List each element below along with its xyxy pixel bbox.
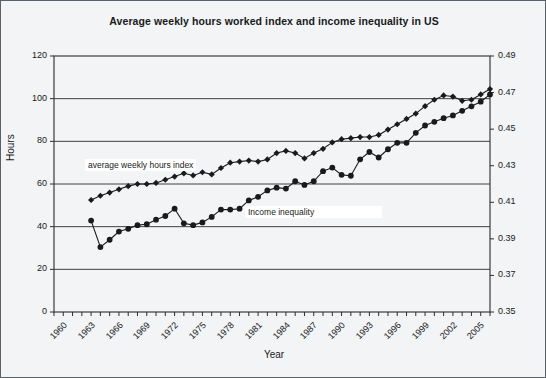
data-point bbox=[116, 229, 122, 235]
data-point bbox=[478, 91, 484, 97]
data-point bbox=[237, 206, 243, 212]
data-point bbox=[394, 140, 400, 146]
data-point bbox=[274, 150, 280, 156]
data-point bbox=[218, 207, 224, 213]
data-point bbox=[116, 186, 122, 192]
data-point bbox=[125, 226, 131, 232]
data-point bbox=[431, 119, 437, 125]
data-point bbox=[255, 194, 261, 200]
chart-figure: Average weekly hours worked index and in… bbox=[0, 0, 546, 378]
data-point bbox=[450, 113, 456, 119]
y-tick-label-left: 60 bbox=[11, 178, 47, 188]
data-point bbox=[376, 155, 382, 161]
data-point bbox=[339, 172, 345, 178]
data-point bbox=[264, 188, 270, 194]
series-label-hours-index: average weekly hours index bbox=[85, 159, 196, 171]
data-point bbox=[311, 150, 317, 156]
plot-area bbox=[1, 1, 546, 378]
data-point bbox=[255, 159, 261, 165]
data-point bbox=[162, 213, 168, 219]
data-point bbox=[162, 177, 168, 183]
data-point bbox=[199, 169, 205, 175]
data-point bbox=[311, 178, 317, 184]
data-point bbox=[394, 121, 400, 127]
data-point bbox=[171, 173, 177, 179]
data-point bbox=[264, 156, 270, 162]
data-point bbox=[292, 150, 298, 156]
data-point bbox=[88, 197, 94, 203]
data-point bbox=[134, 181, 140, 187]
data-point bbox=[487, 86, 493, 92]
data-point bbox=[348, 135, 354, 141]
data-point bbox=[246, 157, 252, 163]
data-point bbox=[190, 222, 196, 228]
data-point bbox=[135, 222, 141, 228]
data-point bbox=[301, 155, 307, 161]
data-point bbox=[357, 134, 363, 140]
data-point bbox=[413, 130, 419, 136]
data-point bbox=[144, 221, 150, 227]
data-point bbox=[487, 92, 493, 98]
data-point bbox=[97, 193, 103, 199]
y-tick-label-left: 0 bbox=[11, 306, 47, 316]
y-tick-label-left: 100 bbox=[11, 93, 47, 103]
data-point bbox=[320, 168, 326, 174]
y-tick-label-right: 0.43 bbox=[498, 160, 538, 170]
data-point bbox=[357, 156, 363, 162]
data-point bbox=[181, 220, 187, 226]
data-point bbox=[459, 108, 465, 114]
data-point bbox=[172, 206, 178, 212]
data-point bbox=[404, 140, 410, 146]
y-tick-label-right: 0.49 bbox=[498, 50, 538, 60]
data-point bbox=[385, 146, 391, 152]
data-point bbox=[422, 123, 428, 129]
y-tick-label-right: 0.35 bbox=[498, 306, 538, 316]
data-point bbox=[236, 159, 242, 165]
data-point bbox=[227, 160, 233, 166]
data-point bbox=[209, 171, 215, 177]
data-point bbox=[478, 99, 484, 105]
data-point bbox=[274, 185, 280, 191]
data-point bbox=[329, 165, 335, 171]
data-point bbox=[376, 132, 382, 138]
axis-ticks bbox=[50, 56, 494, 316]
data-point bbox=[283, 186, 289, 192]
data-point bbox=[385, 127, 391, 133]
data-point bbox=[227, 207, 233, 213]
series-label-income-inequality: Income inequality bbox=[245, 206, 382, 218]
y-tick-label-left: 40 bbox=[11, 221, 47, 231]
data-point bbox=[366, 134, 372, 140]
data-point bbox=[441, 115, 447, 121]
data-point bbox=[292, 178, 298, 184]
data-point bbox=[348, 173, 354, 179]
y-tick-label-right: 0.47 bbox=[498, 87, 538, 97]
y-tick-label-left: 80 bbox=[11, 135, 47, 145]
data-point bbox=[107, 237, 113, 243]
data-point bbox=[246, 198, 252, 204]
y-tick-label-left: 20 bbox=[11, 263, 47, 273]
data-point bbox=[431, 97, 437, 103]
data-point bbox=[441, 92, 447, 98]
data-point bbox=[283, 148, 289, 154]
y-tick-label-right: 0.39 bbox=[498, 233, 538, 243]
data-point bbox=[97, 244, 103, 250]
y-tick-label-left: 120 bbox=[11, 50, 47, 60]
data-point bbox=[403, 116, 409, 122]
data-point bbox=[153, 217, 159, 223]
data-point bbox=[153, 180, 159, 186]
data-point bbox=[107, 189, 113, 195]
data-point bbox=[468, 97, 474, 103]
data-point bbox=[200, 220, 206, 226]
data-point bbox=[302, 182, 308, 188]
data-point bbox=[88, 218, 94, 224]
data-point bbox=[144, 181, 150, 187]
data-point bbox=[329, 139, 335, 145]
y-tick-label-right: 0.37 bbox=[498, 269, 538, 279]
data-point bbox=[181, 170, 187, 176]
data-point bbox=[218, 165, 224, 171]
data-point bbox=[367, 149, 373, 155]
data-point bbox=[209, 214, 215, 220]
data-point bbox=[469, 103, 475, 109]
y-tick-label-right: 0.45 bbox=[498, 123, 538, 133]
series-line-1 bbox=[91, 89, 490, 200]
